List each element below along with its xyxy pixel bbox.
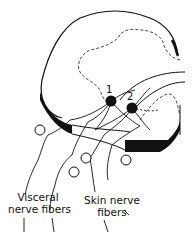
visceral-fibers-label: Visceral nerve fibers bbox=[8, 191, 68, 215]
white-matter-line-lower bbox=[135, 82, 185, 108]
visceral-ganglion-2 bbox=[81, 153, 91, 163]
skin-label-line2: fibers bbox=[84, 206, 140, 218]
visceral-label-line1: Visceral bbox=[8, 191, 68, 203]
skin-label-line1: Skin nerve bbox=[84, 194, 140, 206]
skin-ganglion-1 bbox=[69, 167, 79, 177]
section-slab-top bbox=[72, 125, 130, 132]
skin-fibers-label: Skin nerve fibers bbox=[84, 194, 140, 218]
neuron-1-label: 1 bbox=[106, 84, 112, 95]
visceral-label-line2: nerve fibers bbox=[8, 203, 68, 215]
skin-ganglion-2 bbox=[121, 155, 131, 165]
section-slab-right bbox=[125, 118, 180, 152]
ganglion-circles bbox=[35, 125, 131, 177]
visceral-ganglion-1 bbox=[35, 125, 45, 135]
spinal-cord-diagram: 1 2 Visceral nerve fibers Skin nerve fib… bbox=[0, 0, 192, 234]
neuron-2-label: 2 bbox=[127, 91, 133, 102]
